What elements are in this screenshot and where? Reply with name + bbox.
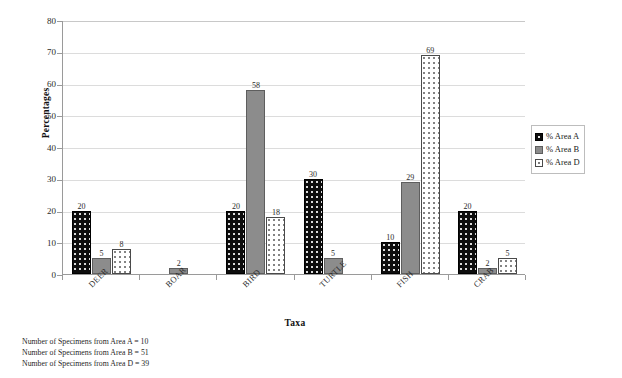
y-tick-label: 10 bbox=[30, 239, 56, 248]
y-tick-label: 80 bbox=[30, 17, 56, 26]
bar-value-label: 20 bbox=[78, 203, 86, 211]
bar-value-label: 20 bbox=[463, 203, 471, 211]
gridline bbox=[63, 243, 525, 244]
y-tick-label: 30 bbox=[30, 175, 56, 184]
bar-value-label: 29 bbox=[406, 174, 414, 182]
x-tick-mark bbox=[216, 275, 217, 280]
legend-label-area-b: % Area B bbox=[546, 145, 579, 154]
bar-chart: Percentages 01020304050607080 2058220581… bbox=[0, 0, 622, 378]
legend-item-area-b: % Area B bbox=[535, 143, 580, 156]
bar-group-deer: 2058 bbox=[72, 20, 131, 274]
bar-value-label: 10 bbox=[386, 234, 394, 242]
bar-value-label: 20 bbox=[232, 203, 240, 211]
y-tick-label: 50 bbox=[30, 112, 56, 121]
legend-swatch-area-d-icon bbox=[535, 159, 543, 167]
footnote-area-b: Number of Specimens from Area B = 51 bbox=[22, 347, 149, 358]
x-tick-mark bbox=[525, 275, 526, 280]
footnote-area-a: Number of Specimens from Area A = 10 bbox=[22, 336, 149, 347]
bar-group-bird: 205818 bbox=[226, 20, 285, 274]
gridline bbox=[63, 85, 525, 86]
chart-footnotes: Number of Specimens from Area A = 10 Num… bbox=[22, 336, 149, 369]
bar-group-fish: 102969 bbox=[381, 20, 440, 274]
gridline bbox=[63, 21, 525, 22]
gridline bbox=[63, 212, 525, 213]
bar-fish-d: 69 bbox=[421, 55, 440, 274]
y-tick-label: 0 bbox=[30, 271, 56, 280]
bar-fish-a: 10 bbox=[381, 242, 400, 274]
bar-value-label: 58 bbox=[252, 82, 260, 90]
legend-item-area-d: % Area D bbox=[535, 156, 580, 169]
bar-deer-a: 20 bbox=[72, 211, 91, 275]
x-tick-mark bbox=[139, 275, 140, 280]
bar-fish-b: 29 bbox=[401, 182, 420, 274]
bar-value-label: 30 bbox=[309, 171, 317, 179]
bar-value-label: 5 bbox=[100, 250, 104, 258]
x-tick-mark bbox=[371, 275, 372, 280]
y-tick-label: 60 bbox=[30, 80, 56, 89]
gridline bbox=[63, 116, 525, 117]
gridline bbox=[63, 53, 525, 54]
chart-legend: % Area A % Area B % Area D bbox=[531, 125, 585, 174]
bar-crab-a: 20 bbox=[458, 211, 477, 275]
bar-value-label: 18 bbox=[272, 209, 280, 217]
y-tick-label: 20 bbox=[30, 207, 56, 216]
bar-turtle-a: 30 bbox=[304, 179, 323, 274]
legend-item-area-a: % Area A bbox=[535, 130, 580, 143]
bar-bird-b: 58 bbox=[246, 90, 265, 274]
x-tick-mark bbox=[62, 275, 63, 280]
legend-swatch-area-a-icon bbox=[535, 133, 543, 141]
bar-group-turtle: 305 bbox=[304, 20, 363, 274]
bar-bird-a: 20 bbox=[226, 211, 245, 275]
legend-label-area-a: % Area A bbox=[546, 132, 579, 141]
bar-value-label: 69 bbox=[426, 47, 434, 55]
bar-group-boar: 2 bbox=[149, 20, 208, 274]
bar-value-label: 5 bbox=[505, 250, 509, 258]
legend-label-area-d: % Area D bbox=[546, 158, 580, 167]
x-tick-mark bbox=[448, 275, 449, 280]
gridline bbox=[63, 148, 525, 149]
footnote-area-d: Number of Specimens from Area D = 39 bbox=[22, 358, 149, 369]
x-axis-title: Taxa bbox=[0, 318, 590, 328]
y-tick-label: 70 bbox=[30, 48, 56, 57]
plot-area: 205822058183051029692025 bbox=[62, 21, 525, 275]
bar-crab-d: 5 bbox=[498, 258, 517, 274]
gridline bbox=[63, 180, 525, 181]
legend-swatch-area-b-icon bbox=[535, 146, 543, 154]
y-tick-label: 40 bbox=[30, 144, 56, 153]
bar-group-crab: 2025 bbox=[458, 20, 517, 274]
bar-bird-d: 18 bbox=[266, 217, 285, 274]
bar-value-label: 5 bbox=[331, 250, 335, 258]
bar-deer-d: 8 bbox=[112, 249, 131, 274]
x-tick-mark bbox=[294, 275, 295, 280]
bar-value-label: 8 bbox=[120, 241, 124, 249]
